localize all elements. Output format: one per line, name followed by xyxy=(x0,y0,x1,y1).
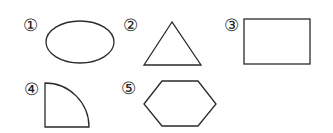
label-5: ⑤ xyxy=(121,80,136,97)
hexagon-shape xyxy=(144,81,216,126)
label-2: ② xyxy=(123,17,138,34)
label-3: ③ xyxy=(224,17,239,34)
label-4: ④ xyxy=(24,81,39,98)
label-1: ① xyxy=(23,17,38,34)
quarter-circle-shape xyxy=(45,83,89,127)
ellipse-shape xyxy=(46,21,114,63)
triangle-shape xyxy=(144,22,201,65)
shapes-canvas xyxy=(0,0,333,133)
rectangle-shape xyxy=(244,19,310,64)
